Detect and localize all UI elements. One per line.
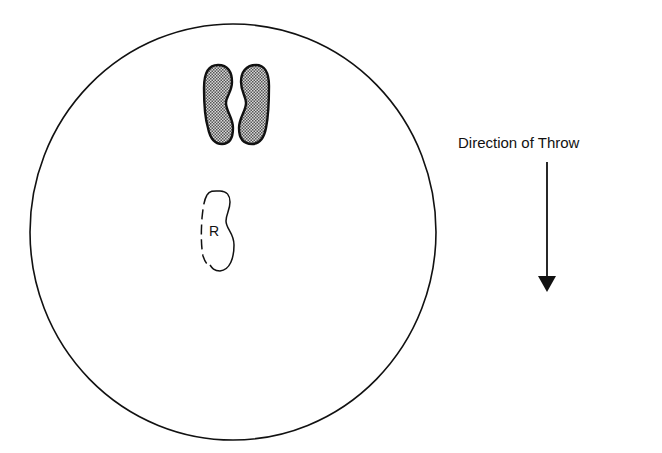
throwing-circle	[30, 24, 436, 440]
footprint-right-shaded	[239, 65, 269, 144]
direction-arrow-head-icon	[538, 276, 556, 292]
footprint-r-label: R	[209, 223, 219, 239]
direction-label: Direction of Throw	[458, 134, 580, 151]
footprint-left-shaded	[204, 65, 233, 144]
throwing-diagram: R Direction of Throw	[0, 0, 662, 453]
